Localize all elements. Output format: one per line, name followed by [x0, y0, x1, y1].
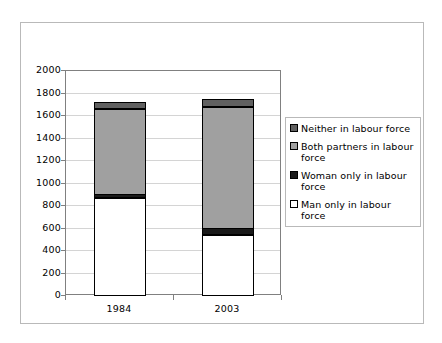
x-tick-label-2003: 2003 — [197, 303, 257, 314]
x-tick-mark — [65, 295, 66, 300]
legend-swatch-icon — [290, 171, 298, 179]
y-axis: 2000 1800 1600 1400 1200 1000 800 600 40… — [21, 70, 61, 295]
legend-label-woman: Woman only in labour force — [301, 170, 416, 192]
bar-segment-both-1984[interactable] — [94, 109, 146, 195]
x-tick-label-1984: 1984 — [89, 303, 149, 314]
y-tick-label-400: 400 — [21, 245, 61, 255]
legend-label-neither: Neither in labour force — [301, 123, 410, 134]
legend-item-neither[interactable]: Neither in labour force — [290, 123, 416, 134]
legend-swatch-icon — [290, 200, 298, 208]
y-tick-label-1800: 1800 — [21, 88, 61, 98]
bar-segment-man-2003[interactable] — [202, 235, 254, 296]
bar-segment-woman-2003[interactable] — [202, 228, 254, 235]
chart-frame: 2000 1800 1600 1400 1200 1000 800 600 40… — [20, 22, 424, 324]
x-tick-mark — [173, 295, 174, 300]
legend-item-both[interactable]: Both partners in labour force — [290, 141, 416, 163]
legend-item-woman[interactable]: Woman only in labour force — [290, 170, 416, 192]
legend-swatch-icon — [290, 124, 298, 132]
y-tick-label-1200: 1200 — [21, 155, 61, 165]
x-tick-mark — [281, 295, 282, 300]
bar-segment-neither-2003[interactable] — [202, 99, 254, 107]
legend-swatch-icon — [290, 142, 298, 150]
bar-1984[interactable] — [94, 71, 146, 296]
y-tick-label-200: 200 — [21, 268, 61, 278]
y-tick-label-600: 600 — [21, 223, 61, 233]
bar-segment-neither-1984[interactable] — [94, 102, 146, 109]
y-tick-label-800: 800 — [21, 200, 61, 210]
bar-segment-both-2003[interactable] — [202, 107, 254, 229]
y-tick-label-1400: 1400 — [21, 133, 61, 143]
bar-segment-man-1984[interactable] — [94, 198, 146, 296]
y-tick-label-1600: 1600 — [21, 110, 61, 120]
chart-legend: Neither in labour force Both partners in… — [285, 117, 421, 227]
bar-2003[interactable] — [202, 71, 254, 296]
plot-area — [65, 70, 281, 295]
legend-label-both: Both partners in labour force — [301, 141, 416, 163]
y-tick-label-0: 0 — [21, 290, 61, 300]
legend-label-man: Man only in labour force — [301, 199, 416, 221]
y-tick-label-1000: 1000 — [21, 178, 61, 188]
legend-item-man[interactable]: Man only in labour force — [290, 199, 416, 221]
y-tick-label-2000: 2000 — [21, 65, 61, 75]
